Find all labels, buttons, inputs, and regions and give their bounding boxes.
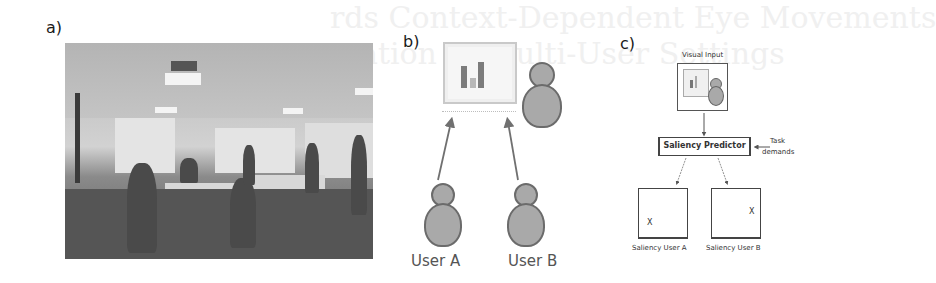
- thumbnail-bar: [695, 76, 697, 88]
- saliency-user-b-label: Saliency User B: [706, 244, 761, 252]
- user-b-gaze-arrow: [508, 122, 518, 180]
- saliency-user-a-box: X: [638, 188, 688, 239]
- predictor-to-user-b-arrow: [718, 158, 727, 183]
- fixation-marker: X: [749, 207, 754, 216]
- user-a-gaze-arrow: [438, 122, 451, 180]
- visual-input-box: [677, 63, 728, 111]
- predictor-to-user-a-arrow: [677, 158, 686, 183]
- fixation-marker: X: [647, 218, 652, 227]
- saliency-user-a-label: Saliency User A: [632, 244, 687, 252]
- saliency-user-b-box: X: [711, 188, 761, 239]
- task-label: Task: [770, 137, 785, 145]
- thumbnail-person-body: [708, 86, 724, 106]
- visual-input-monitor-thumbnail: [683, 69, 709, 97]
- panel-c-label: c): [620, 34, 635, 53]
- visual-input-label: Visual Input: [682, 51, 723, 59]
- thumbnail-bar: [690, 80, 693, 88]
- saliency-predictor-box: Saliency Predictor: [658, 137, 751, 156]
- demands-label: demands: [762, 148, 794, 156]
